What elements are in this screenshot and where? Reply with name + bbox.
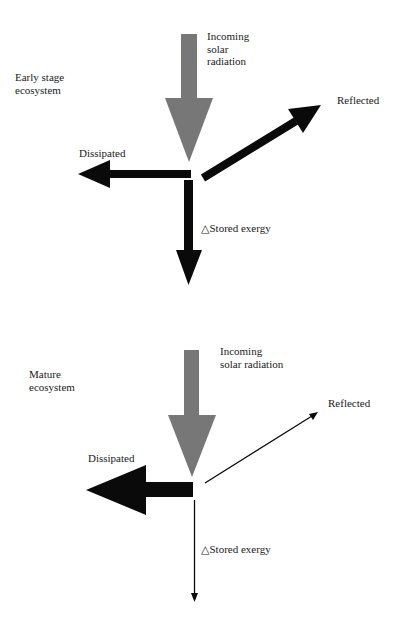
- dissipated-arrow: [78, 160, 191, 188]
- stored-exergy-arrow: [176, 180, 202, 285]
- reflected-label: Reflected: [328, 397, 370, 410]
- mature-title: Mature ecosystem: [29, 368, 75, 393]
- mature-arrows: [0, 300, 398, 622]
- reflected-label: Reflected: [337, 94, 379, 107]
- stored-exergy-label: △Stored exergy: [201, 222, 271, 235]
- early-stage-panel: Early stage ecosystem Incoming solar rad…: [0, 0, 398, 300]
- dissipated-arrow: [86, 465, 193, 515]
- incoming-radiation-label: Incoming solar radiation: [220, 345, 283, 370]
- stored-exergy-label: △Stored exergy: [201, 543, 271, 556]
- incoming-radiation-label: Incoming solar radiation: [207, 30, 249, 68]
- stored-exergy-arrow: [191, 500, 198, 602]
- early-stage-title: Early stage ecosystem: [15, 71, 64, 96]
- incoming-radiation-arrow: [168, 350, 216, 477]
- early-stage-arrows: [0, 0, 398, 300]
- mature-panel: Mature ecosystem Incoming solar radiatio…: [0, 300, 398, 622]
- reflected-arrow: [205, 412, 318, 483]
- dissipated-label: Dissipated: [79, 147, 125, 160]
- incoming-radiation-arrow: [165, 34, 213, 162]
- reflected-arrow: [203, 105, 321, 178]
- dissipated-label: Dissipated: [88, 452, 134, 465]
